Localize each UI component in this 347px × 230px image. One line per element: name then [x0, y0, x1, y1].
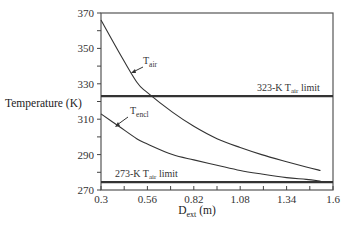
reference-line-label: 323-K Tair limit — [257, 82, 320, 95]
y-tick-label: 310 — [78, 113, 95, 125]
plot-border — [101, 13, 333, 190]
y-tick-label: 270 — [78, 184, 95, 196]
x-axis-title: Dext (m) — [178, 204, 216, 219]
annotations: TairTencl — [115, 55, 158, 127]
series-label-t-encl: Tencl — [130, 105, 149, 119]
x-tick-label: 1.6 — [326, 193, 340, 205]
y-tick-label: 330 — [78, 78, 95, 90]
reference-lines: 323-K Tair limit273-K Tair limit — [101, 82, 333, 182]
chart: 370350330310290270 0.30.560.821.081.341.… — [0, 0, 347, 230]
reference-line-label: 273-K Tair limit — [115, 168, 178, 181]
x-tick-label: 0.56 — [138, 193, 158, 205]
x-axis: 0.30.560.821.081.341.6 — [94, 186, 340, 205]
plot-frame — [101, 13, 333, 190]
series-lines — [101, 20, 321, 181]
series-label-t-air: Tair — [143, 55, 158, 69]
x-tick-label: 1.34 — [277, 193, 297, 205]
y-tick-label: 350 — [78, 42, 95, 54]
y-tick-label: 290 — [78, 149, 95, 161]
y-tick-label: 370 — [78, 7, 95, 19]
x-tick-label: 0.3 — [94, 193, 108, 205]
x-tick-label: 1.08 — [231, 193, 251, 205]
y-axis-title: Temperature (K) — [5, 97, 82, 110]
arrow-head-icon — [131, 69, 136, 73]
